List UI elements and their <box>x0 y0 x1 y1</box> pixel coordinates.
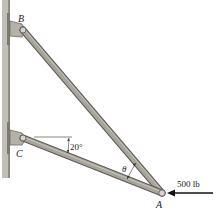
pin-b <box>20 27 26 33</box>
pin-a <box>159 190 165 196</box>
label-a: A <box>155 199 163 210</box>
truss-diagram: B C A θ 20° 500 lb <box>0 0 223 221</box>
label-theta: θ <box>122 164 127 174</box>
label-c: C <box>16 148 23 159</box>
label-b: B <box>18 13 24 24</box>
force-arrow <box>167 190 213 197</box>
pin-c <box>20 135 26 141</box>
label-force: 500 lb <box>177 179 200 189</box>
wall <box>2 0 10 178</box>
theta-indicator <box>127 163 136 179</box>
label-angle-20: 20° <box>70 142 83 152</box>
